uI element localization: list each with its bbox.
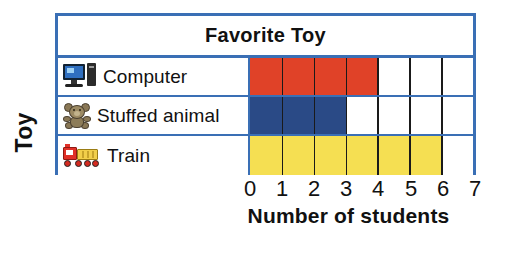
table-row: Stuffed animal <box>58 97 473 136</box>
category-label-cell: Computer <box>58 58 250 95</box>
y-axis-title-text: Toy <box>11 112 38 152</box>
x-axis-title-text: Number of students <box>248 204 450 228</box>
x-tick-0: 0 <box>244 176 256 202</box>
chart-title-band: Favorite Toy <box>58 16 473 58</box>
x-tick-7: 7 <box>469 176 481 202</box>
chart-figure: Toy Favorite Toy Computer <box>0 0 505 261</box>
bar-cell-stuffed-animal <box>250 97 473 134</box>
bar-computer <box>250 58 377 95</box>
bar-stuffed-animal <box>250 97 346 134</box>
x-axis-title: Number of students <box>192 202 505 230</box>
chart-title: Favorite Toy <box>205 24 326 47</box>
x-tick-3: 3 <box>340 176 352 202</box>
x-tick-6: 6 <box>437 176 449 202</box>
category-label-cell: Stuffed animal <box>58 97 250 134</box>
x-tick-2: 2 <box>308 176 320 202</box>
table-row: Train <box>58 136 473 175</box>
category-label: Stuffed animal <box>97 105 220 127</box>
x-tick-5: 5 <box>405 176 417 202</box>
table-row: Computer <box>58 58 473 97</box>
x-tick-1: 1 <box>276 176 288 202</box>
chart-frame: Favorite Toy Computer <box>55 13 476 175</box>
bar-train <box>250 136 441 175</box>
category-label: Train <box>107 145 150 167</box>
chart-plot-body: Computer <box>58 58 473 172</box>
computer-icon <box>63 63 97 90</box>
y-axis-title: Toy <box>2 86 48 178</box>
x-tick-4: 4 <box>372 176 384 202</box>
train-icon <box>63 144 101 168</box>
category-label-cell: Train <box>58 136 250 175</box>
bar-cell-computer <box>250 58 473 95</box>
bar-cell-train <box>250 136 473 175</box>
category-label: Computer <box>103 66 187 88</box>
x-axis-ticks: 0 1 2 3 4 5 6 7 <box>0 176 505 202</box>
teddy-bear-icon <box>63 102 91 130</box>
